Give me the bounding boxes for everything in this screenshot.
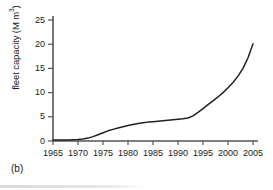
panel-caption: (b) xyxy=(11,163,23,174)
y-axis-title-text: fleet capacity (M m xyxy=(10,12,21,90)
y-axis-title-tail: ) xyxy=(10,5,21,8)
y-tick-label-5: 5 xyxy=(25,112,45,121)
figure-panel-b: fleet capacity (M m3) 0 5 10 15 20 25 19… xyxy=(0,0,273,190)
fleet-capacity-line xyxy=(53,44,253,140)
y-tick-label-20: 20 xyxy=(25,40,45,49)
y-tick-label-10: 10 xyxy=(25,88,45,97)
y-axis-title-superscript: 3 xyxy=(8,8,15,12)
y-axis-title: fleet capacity (M m3) xyxy=(10,0,21,109)
x-tick-label-2005: 2005 xyxy=(238,149,268,158)
y-tick-label-15: 15 xyxy=(25,64,45,73)
y-tick-label-25: 25 xyxy=(25,16,45,25)
y-tick-label-0: 0 xyxy=(25,137,45,146)
scan-artifact-strip xyxy=(0,185,150,188)
